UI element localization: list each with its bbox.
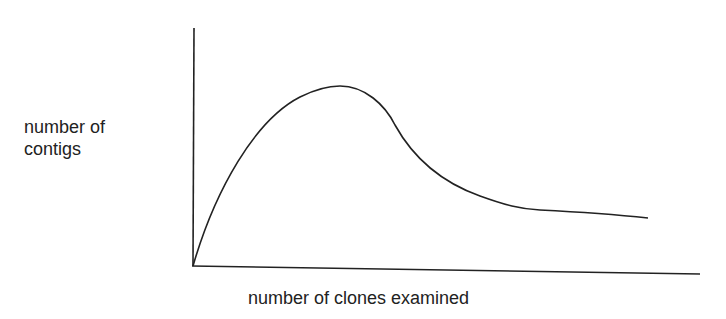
chart-plot <box>0 0 726 319</box>
x-axis <box>192 266 700 274</box>
contigs-curve <box>193 86 648 266</box>
x-axis-label: number of clones examined <box>248 287 469 309</box>
y-axis <box>193 28 194 266</box>
